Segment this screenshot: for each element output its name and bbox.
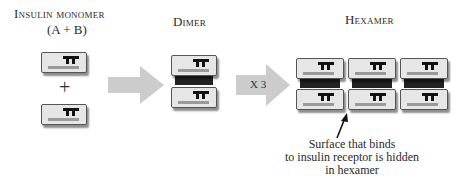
helix-bar	[303, 72, 334, 75]
hexamer-interface-band	[404, 79, 444, 88]
binding-site-leg	[373, 64, 376, 70]
binding-site-leg	[321, 95, 324, 101]
helix-bar	[355, 72, 386, 75]
multiplier-label: X 3	[250, 78, 266, 90]
binding-site-leg	[379, 64, 382, 70]
helix-bar	[178, 101, 209, 104]
binding-site-leg	[425, 64, 428, 70]
callout-arrow-icon	[332, 112, 352, 140]
hexamer-block-3	[400, 58, 448, 79]
binding-site-leg	[66, 58, 69, 64]
dimer-block-top	[171, 55, 217, 76]
hexamer-block-1	[296, 58, 344, 79]
dimer-block-bottom	[171, 87, 217, 108]
helix-bar	[407, 103, 438, 106]
callout-text: Surface that binds to insulin receptor i…	[262, 138, 442, 177]
monomer-title: Insulin monomer	[14, 6, 105, 22]
binding-site-leg	[431, 64, 434, 70]
monomer-block-a	[41, 52, 87, 73]
binding-site-leg	[327, 64, 330, 70]
plus-sign: +	[59, 76, 70, 99]
hexamer-title: Hexamer	[345, 12, 394, 28]
helix-bar	[48, 118, 79, 121]
monomer-block-b	[41, 104, 87, 125]
binding-site-leg	[196, 61, 199, 67]
binding-site-leg	[66, 110, 69, 116]
binding-site-leg	[202, 61, 205, 67]
helix-bar	[407, 72, 438, 75]
helix-bar	[303, 103, 334, 106]
hexamer-interface-band	[352, 79, 392, 88]
helix-bar	[355, 103, 386, 106]
dimer-interface-band	[175, 76, 213, 85]
callout-line: in hexamer	[262, 164, 442, 177]
hexamer-block-6	[400, 89, 448, 110]
hexamer-interface-band	[300, 79, 340, 88]
monomer-subtitle: (A + B)	[47, 22, 87, 38]
dimer-title: Dimer	[173, 14, 206, 30]
binding-site-leg	[431, 95, 434, 101]
binding-site-leg	[202, 93, 205, 99]
binding-site-leg	[72, 58, 75, 64]
binding-site-leg	[373, 95, 376, 101]
hexamer-block-2	[348, 58, 396, 79]
hexamer-block-4	[296, 89, 344, 110]
helix-bar	[48, 66, 79, 69]
arrow-right-icon	[108, 66, 164, 104]
binding-site-leg	[321, 64, 324, 70]
hexamer-block-5	[348, 89, 396, 110]
binding-site-leg	[196, 93, 199, 99]
binding-site-leg	[425, 95, 428, 101]
binding-site-leg	[327, 95, 330, 101]
binding-site-leg	[379, 95, 382, 101]
helix-bar	[178, 69, 209, 72]
binding-site-leg	[72, 110, 75, 116]
